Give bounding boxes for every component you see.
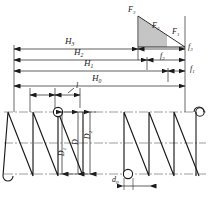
- wire-diameter-dimension: [123, 178, 150, 190]
- force-label-f2: F2: [152, 22, 159, 30]
- diameter-label-outer: D2: [84, 127, 92, 143]
- deflection-label-f3: f3: [188, 43, 193, 51]
- spring-diagram-figure: F3 F2 F1 H3 H2 H1 H0 f3 f2 f1 l D1 D D2: [0, 0, 210, 207]
- spring-coil-right: [124, 112, 199, 176]
- force-label-f3: F3: [128, 6, 135, 14]
- deflection-label-f1: f1: [190, 65, 195, 73]
- wire-diameter-label: d0: [112, 176, 118, 184]
- end-cap-left: [3, 176, 13, 181]
- force-label-f1: F1: [172, 28, 179, 36]
- deflection-label-f2: f2: [160, 52, 165, 60]
- spring-body-group: [3, 107, 206, 181]
- pitch-label: l: [76, 82, 78, 90]
- spring-zigzag-right: [124, 112, 199, 176]
- pitch-leader-line: [68, 88, 74, 93]
- diameter-label-mean: D: [72, 134, 80, 150]
- spring-centerlines: [4, 112, 206, 174]
- wire-cross-section-bottom-right: [123, 169, 132, 178]
- height-label-h2: H2: [74, 48, 83, 57]
- diameter-label-inner: D1: [58, 144, 66, 160]
- height-label-h1: H1: [84, 59, 93, 68]
- height-label-h0: H0: [92, 74, 101, 83]
- height-label-h3: H3: [65, 37, 74, 46]
